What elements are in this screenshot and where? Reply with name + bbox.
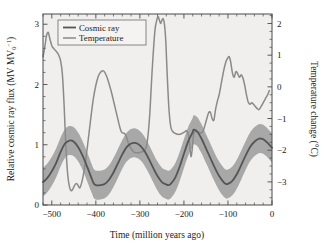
y-left-tick-labels: 0123 xyxy=(35,19,40,210)
y-right-axis-title: Temperature change (°C) xyxy=(308,61,319,157)
y-left-tick-label: 3 xyxy=(35,19,40,29)
y-left-axis-title: Relative cosmic ray flux (MV MV0−1) xyxy=(5,37,17,182)
y-right-tick-labels: −3−2−1012 xyxy=(277,19,287,187)
x-tick-labels: −500−400−300−200−1000 xyxy=(43,209,275,219)
chart-svg: −500−400−300−200−1000 0123 −3−2−1012 Tim… xyxy=(0,0,324,246)
x-tick-label: −500 xyxy=(43,209,62,219)
y-right-tick-label: 1 xyxy=(277,50,282,60)
x-tick-label: −400 xyxy=(87,209,106,219)
x-axis-title: Time (million years ago) xyxy=(110,230,204,241)
legend[interactable]: Cosmic ray Temperature xyxy=(58,20,146,45)
figure-container: −500−400−300−200−1000 0123 −3−2−1012 Tim… xyxy=(0,0,324,246)
x-tick-label: −300 xyxy=(131,209,150,219)
y-right-tick-label: −1 xyxy=(277,114,287,124)
x-tick-label: 0 xyxy=(270,209,275,219)
legend-label-temperature: Temperature xyxy=(79,33,123,43)
x-tick-label: −200 xyxy=(175,209,194,219)
legend-label-cosmic-ray: Cosmic ray xyxy=(79,23,120,33)
x-tick-label: −100 xyxy=(219,209,238,219)
y-right-tick-label: 0 xyxy=(277,82,282,92)
y-left-tick-label: 2 xyxy=(35,80,40,90)
y-left-tick-label: 1 xyxy=(35,140,40,150)
y-right-tick-label: −3 xyxy=(277,177,287,187)
y-right-tick-label: −2 xyxy=(277,145,287,155)
y-right-tick-label: 2 xyxy=(277,19,282,29)
y-left-tick-label: 0 xyxy=(35,200,40,210)
